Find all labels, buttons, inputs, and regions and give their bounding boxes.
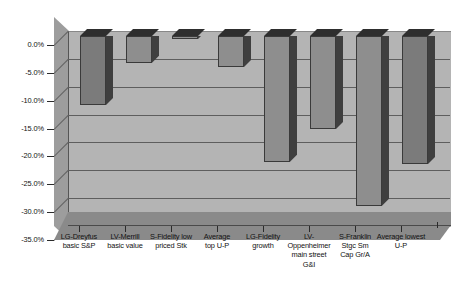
bar <box>356 36 382 206</box>
x-axis-label-line: top U-P <box>191 241 243 250</box>
bar-side-face <box>336 36 343 129</box>
y-axis-tick <box>47 45 54 46</box>
x-axis-label-line: LG-Fidelity <box>237 232 289 241</box>
bar <box>172 36 198 39</box>
x-axis-label-line: S-Fidelity low <box>145 232 197 241</box>
x-axis-label: LG-Dreyfusbasic S&P <box>53 232 105 250</box>
y-axis-tick <box>47 73 54 74</box>
x-axis-label-line: LV-Merrill <box>99 232 151 241</box>
bar-side-face <box>106 36 113 105</box>
bar <box>126 36 152 63</box>
gridline <box>68 115 450 116</box>
y-axis-tick <box>47 184 54 185</box>
y-axis-tick <box>47 129 54 130</box>
x-axis-label-line: LG-Dreyfus <box>53 232 105 241</box>
x-axis-label: Averagetop U-P <box>191 232 243 250</box>
x-axis-label: Average lowestU-P <box>375 232 427 250</box>
x-axis-label-line: basic S&P <box>53 241 105 250</box>
x-axis-label-line: Average lowest <box>375 232 427 241</box>
x-axis-label-line: growth <box>237 241 289 250</box>
gridline <box>68 142 450 143</box>
bar-front-face <box>356 36 382 206</box>
bar <box>264 36 290 162</box>
x-axis-label-line: U-P <box>375 241 427 250</box>
bar <box>310 36 336 129</box>
x-axis-label-line: G&I <box>283 260 335 269</box>
y-axis-tick-label: -5.0% <box>0 69 44 77</box>
chart-left-wall <box>54 17 69 240</box>
bar <box>80 36 106 105</box>
bar <box>218 36 244 67</box>
x-axis-label-line: S-Franklin <box>329 232 381 241</box>
gridline <box>68 170 450 171</box>
y-axis-tick-label: -25.0% <box>0 180 44 188</box>
x-axis-label-line: LV- <box>283 232 335 241</box>
y-axis-tick-label: 0.0% <box>0 41 44 49</box>
bar-side-face <box>382 36 389 206</box>
x-axis-label-line: Stgc Sm <box>329 241 381 250</box>
bar-front-face <box>310 36 336 129</box>
x-axis-label-line: main street <box>283 250 335 259</box>
bar <box>402 36 428 164</box>
bar-front-face <box>264 36 290 162</box>
x-axis-label-line: Cap Gr/A <box>329 250 381 259</box>
y-axis-tick-label: -35.0% <box>0 236 44 244</box>
bar-front-face <box>218 36 244 67</box>
x-axis-label-line: basic value <box>99 241 151 250</box>
bar-side-face <box>290 36 297 162</box>
gridline <box>68 198 450 199</box>
bar-front-face <box>172 36 198 39</box>
x-axis-label: LV-Oppenheimermain streetG&I <box>283 232 335 269</box>
bar-side-face <box>428 36 435 164</box>
x-axis-label-line: Oppenheimer <box>283 241 335 250</box>
bar-front-face <box>402 36 428 164</box>
x-axis-label-line: Average <box>191 232 243 241</box>
y-axis-tick-label: -10.0% <box>0 97 44 105</box>
x-axis-label: LG-Fidelitygrowth <box>237 232 289 250</box>
bar-front-face <box>80 36 106 105</box>
x-axis-label-line: priced Stk <box>145 241 197 250</box>
x-axis-label: S-Fidelity lowpriced Stk <box>145 232 197 250</box>
y-axis-tick-label: -30.0% <box>0 208 44 216</box>
x-axis-label: S-FranklinStgc SmCap Gr/A <box>329 232 381 260</box>
y-axis-tick-label: -15.0% <box>0 125 44 133</box>
y-axis-tick <box>47 101 54 102</box>
y-axis-tick <box>47 212 54 213</box>
bar-front-face <box>126 36 152 63</box>
gridline <box>68 87 450 88</box>
y-axis-tick <box>47 156 54 157</box>
y-axis-tick-label: -20.0% <box>0 152 44 160</box>
bar-chart: 0.0%-5.0%-10.0%-15.0%-20.0%-25.0%-30.0%-… <box>0 0 463 288</box>
x-axis-label: LV-Merrillbasic value <box>99 232 151 250</box>
x-axis-tick <box>437 222 438 228</box>
